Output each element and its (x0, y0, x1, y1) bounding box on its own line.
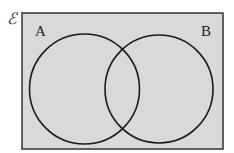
set-a-label: A (35, 23, 46, 39)
venn-diagram: ℰ A B (0, 0, 234, 153)
set-b-label: B (201, 23, 211, 39)
universal-set-symbol: ℰ (7, 10, 19, 27)
